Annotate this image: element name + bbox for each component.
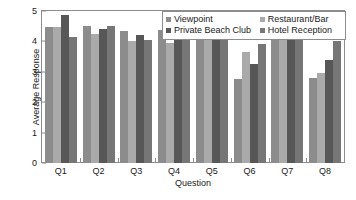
bar xyxy=(317,73,325,163)
legend-entry[interactable]: Restaurant/Bar xyxy=(260,14,342,25)
x-tick-label: Q6 xyxy=(231,165,269,179)
y-tick-label: 0 xyxy=(32,159,42,168)
bar xyxy=(204,34,212,163)
bar xyxy=(91,34,99,163)
bar xyxy=(333,41,341,163)
legend-entry[interactable]: Private Beach Club xyxy=(166,25,260,36)
bar xyxy=(144,40,152,163)
bar xyxy=(53,27,61,163)
bar xyxy=(234,79,242,164)
legend-label: Restaurant/Bar xyxy=(268,14,329,25)
y-tick-label: 1 xyxy=(32,128,42,137)
bar xyxy=(83,26,91,163)
bar xyxy=(128,41,136,163)
bar xyxy=(325,60,333,163)
y-tick-label: 5 xyxy=(32,7,42,16)
bar xyxy=(287,30,295,163)
bar xyxy=(45,27,53,163)
x-tick-label: Q3 xyxy=(118,165,156,179)
bar-group xyxy=(42,11,80,163)
legend-row: Private Beach ClubHotel Reception xyxy=(166,25,342,36)
bar xyxy=(258,44,266,163)
bar-group xyxy=(118,11,156,163)
legend-swatch-icon xyxy=(260,17,265,22)
bar xyxy=(107,26,115,163)
x-axis-title: Question xyxy=(41,178,345,188)
legend-label: Viewpoint xyxy=(174,14,213,25)
y-axis-title: Average Response xyxy=(31,49,41,125)
bar xyxy=(158,30,166,163)
legend-label: Private Beach Club xyxy=(174,25,251,36)
bar xyxy=(242,52,250,163)
bar xyxy=(69,37,77,163)
bar xyxy=(279,31,287,163)
legend-entry[interactable]: Viewpoint xyxy=(166,14,260,25)
bar xyxy=(166,43,174,163)
bar xyxy=(295,26,303,163)
bar xyxy=(120,31,128,163)
x-tick-label: Q2 xyxy=(80,165,118,179)
x-tick-label: Q5 xyxy=(193,165,231,179)
bar xyxy=(220,26,228,163)
bar xyxy=(182,32,190,163)
legend-swatch-icon xyxy=(166,17,171,22)
bar xyxy=(212,31,220,163)
bar xyxy=(99,29,107,163)
legend-row: ViewpointRestaurant/Bar xyxy=(166,14,342,25)
bar xyxy=(271,34,279,163)
bar-chart-figure: 012345 Average Response Q1Q2Q3Q4Q5Q6Q7Q8… xyxy=(0,0,356,200)
bar xyxy=(196,27,204,163)
x-tick-label: Q8 xyxy=(306,165,344,179)
x-tick-label: Q7 xyxy=(269,165,307,179)
bar xyxy=(136,35,144,163)
bar-group xyxy=(80,11,118,163)
x-axis-labels: Q1Q2Q3Q4Q5Q6Q7Q8 xyxy=(42,165,344,179)
chart-legend: ViewpointRestaurant/BarPrivate Beach Clu… xyxy=(162,11,346,40)
x-tick-label: Q1 xyxy=(42,165,80,179)
bar xyxy=(250,64,258,163)
y-tick-label: 4 xyxy=(32,37,42,46)
bar xyxy=(61,15,69,163)
legend-label: Hotel Reception xyxy=(268,25,332,36)
x-tick-label: Q4 xyxy=(155,165,193,179)
bar xyxy=(309,78,317,163)
legend-swatch-icon xyxy=(166,28,171,33)
legend-swatch-icon xyxy=(260,28,265,33)
bar xyxy=(174,28,182,163)
legend-entry[interactable]: Hotel Reception xyxy=(260,25,342,36)
